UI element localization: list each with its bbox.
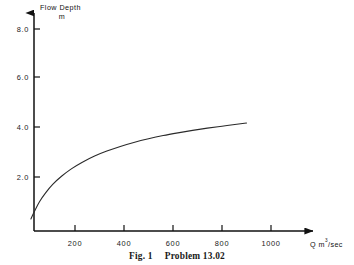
y-axis-unit: m [59, 12, 65, 21]
y-tick-label-2: 2.0 [17, 173, 29, 182]
caption-label: Fig. 1 [129, 251, 153, 261]
flow-depth-chart: 8.0 6.0 4.0 2.0 200 400 600 800 1000 Flo… [0, 0, 354, 265]
x-tick-label-1000: 1000 [261, 239, 280, 248]
x-tick-label-600: 600 [166, 239, 180, 248]
x-axis-ticks [75, 225, 271, 231]
x-tick-label-200: 200 [68, 239, 82, 248]
rating-curve [31, 123, 247, 219]
y-tick-label-6: 6.0 [17, 73, 29, 82]
figure-container: 8.0 6.0 4.0 2.0 200 400 600 800 1000 Flo… [0, 0, 354, 265]
y-axis-ticks [34, 29, 40, 177]
y-tick-label-4: 4.0 [17, 123, 29, 132]
figure-caption: Fig. 1 Problem 13.02 [0, 251, 354, 261]
y-axis-title: Flow Depth [40, 3, 81, 12]
x-axis-title-tail: /sec [328, 240, 343, 249]
x-axis-title-base: Q m [310, 240, 325, 249]
caption-title: Problem 13.02 [165, 251, 225, 261]
x-tick-label-400: 400 [117, 239, 131, 248]
y-tick-label-8: 8.0 [17, 25, 29, 34]
x-tick-label-800: 800 [215, 239, 229, 248]
